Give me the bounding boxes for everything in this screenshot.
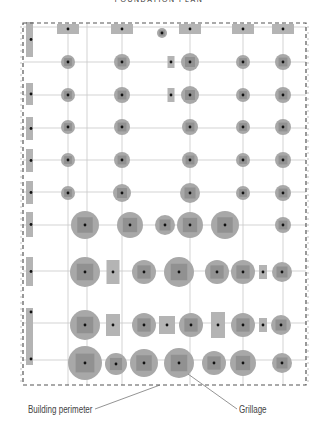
- pile-icon: [189, 126, 192, 129]
- pile-icon: [281, 362, 284, 365]
- pile-icon: [143, 271, 146, 274]
- pile-icon: [30, 93, 33, 96]
- pile-icon: [282, 61, 285, 64]
- strip-footing: [26, 308, 33, 365]
- pile-icon: [189, 224, 192, 227]
- foundation-plan-drawing: [0, 0, 318, 439]
- pile-icon: [164, 224, 167, 227]
- pile-icon: [282, 94, 285, 97]
- pile-icon: [115, 363, 118, 366]
- pile-icon: [30, 159, 33, 162]
- pile-icon: [282, 159, 285, 162]
- pile-icon: [217, 324, 220, 327]
- pile-icon: [189, 61, 192, 64]
- pile-icon: [84, 324, 87, 327]
- pile-icon: [67, 28, 70, 31]
- pile-icon: [282, 192, 285, 195]
- pile-icon: [224, 224, 227, 227]
- building-perimeter-label: Building perimeter: [28, 404, 92, 415]
- pile-icon: [121, 61, 124, 64]
- pile-icon: [189, 159, 192, 162]
- pile-icon: [242, 362, 245, 365]
- pile-icon: [30, 270, 33, 273]
- pile-icon: [67, 94, 70, 97]
- pile-icon: [143, 362, 146, 365]
- pile-icon: [121, 94, 124, 97]
- pile-icon: [216, 271, 219, 274]
- pile-icon: [282, 126, 285, 129]
- pile-icon: [143, 324, 146, 327]
- pile-icon: [67, 159, 70, 162]
- pile-icon: [280, 324, 283, 327]
- annotation-leaders: [95, 374, 237, 409]
- pile-icon: [190, 324, 193, 327]
- pile-icon: [30, 127, 33, 130]
- pile-icon: [170, 94, 173, 97]
- pile-icon: [242, 126, 245, 129]
- pile-icon: [67, 126, 70, 129]
- pile-icon: [242, 271, 245, 274]
- pile-icon: [67, 61, 70, 64]
- pile-icon: [282, 28, 285, 31]
- pile-icon: [161, 32, 164, 35]
- pile-icon: [84, 362, 87, 365]
- pile-icon: [121, 159, 124, 162]
- pile-icon: [30, 38, 33, 41]
- pile-icon: [242, 192, 245, 195]
- pile-icon: [112, 324, 115, 327]
- pile-icon: [213, 362, 216, 365]
- pile-icon: [178, 271, 181, 274]
- pile-icon: [242, 159, 245, 162]
- pile-icon: [84, 271, 87, 274]
- pile-icon: [166, 324, 169, 327]
- pile-icon: [121, 28, 124, 31]
- pile-icon: [262, 324, 265, 327]
- pile-icon: [242, 94, 245, 97]
- pile-icon: [189, 192, 192, 195]
- pile-icon: [30, 358, 33, 361]
- pile-icon: [242, 28, 245, 31]
- pile-icon: [67, 192, 70, 195]
- pile-icon: [30, 223, 33, 226]
- pile-icon: [121, 126, 124, 129]
- perimeter-leader: [95, 385, 160, 409]
- pile-icon: [178, 362, 181, 365]
- grillage-footings: [57, 24, 294, 380]
- grillage-label: Grillage: [239, 404, 267, 415]
- pile-icon: [121, 192, 124, 195]
- pile-icon: [112, 271, 115, 274]
- pile-icon: [262, 271, 265, 274]
- pile-icon: [84, 224, 87, 227]
- grillage-leader: [188, 374, 237, 409]
- pile-icon: [30, 191, 33, 194]
- pile-icon: [129, 224, 132, 227]
- pile-icon: [242, 61, 245, 64]
- pile-icon: [189, 28, 192, 31]
- pile-icon: [242, 324, 245, 327]
- pile-icon: [281, 271, 284, 274]
- pile-icon: [170, 61, 173, 64]
- pile-icon: [282, 224, 285, 227]
- pile-icon: [189, 94, 192, 97]
- pile-icon: [30, 311, 33, 314]
